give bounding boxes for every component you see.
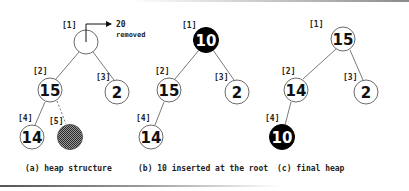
index-c4: [4] — [265, 114, 279, 123]
node-c1-value: 15 — [333, 31, 354, 49]
caption-b: (b) 10 inserted at the root — [138, 163, 268, 173]
node-b2-value: 15 — [159, 82, 180, 100]
removed-value: 20 — [116, 20, 126, 29]
edge-1-2 — [56, 52, 79, 79]
node-c3-value: 2 — [361, 84, 371, 102]
caption-c: (c) final heap — [277, 163, 345, 173]
index-a5: [5] — [49, 117, 63, 126]
node-a5-hatched — [58, 125, 83, 150]
panel-c-final-heap: [1] 15 [2] 14 [3] 2 [4] 10 (c) final hea… — [265, 20, 378, 173]
index-b1: [1] — [182, 21, 196, 30]
index-a2: [2] — [33, 67, 47, 76]
index-a3: [3] — [96, 73, 110, 82]
node-a4-value: 14 — [22, 129, 43, 147]
heap-diagram: 20 removed [1] [2] 15 [3] 2 [4] 14 [5] (… — [0, 0, 409, 191]
node-b1-value: 10 — [196, 32, 217, 50]
index-c3: [3] — [343, 73, 357, 82]
edge-2-4 — [285, 102, 291, 125]
index-a4: [4] — [18, 114, 32, 123]
index-b4: [4] — [136, 114, 150, 123]
node-a2-value: 15 — [40, 82, 61, 100]
panel-a-heap-structure: 20 removed [1] [2] 15 [3] 2 [4] 14 [5] (… — [18, 20, 146, 173]
removed-label: removed — [116, 31, 146, 39]
edge-1-2 — [303, 49, 336, 79]
index-b2: [2] — [155, 67, 169, 76]
bottom-border-line — [0, 185, 280, 187]
node-b4-value: 14 — [141, 129, 162, 147]
caption-a: (a) heap structure — [25, 164, 112, 173]
edge-2-4 — [155, 102, 164, 125]
index-c1: [1] — [309, 20, 323, 29]
node-b3-value: 2 — [232, 84, 242, 102]
panel-b-inserted-at-root: [1] 10 [2] 15 [3] 2 [4] 14 (b) 10 insert… — [136, 21, 268, 173]
node-c2-value: 14 — [286, 82, 307, 100]
edge-1-2 — [175, 50, 199, 79]
index-b3: [3] — [214, 73, 228, 82]
node-c4-value: 10 — [272, 129, 293, 147]
edge-2-4 — [35, 102, 45, 125]
node-a3-value: 2 — [112, 84, 122, 102]
index-c2: [2] — [281, 67, 295, 76]
index-a1: [1] — [62, 21, 76, 30]
